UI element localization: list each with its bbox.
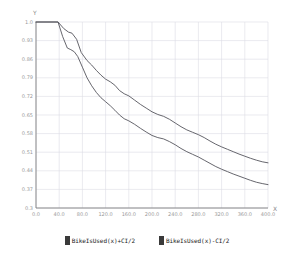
x-tick-label: 80.0 <box>77 212 88 217</box>
y-tick-label: 0.44 <box>22 168 33 173</box>
y-axis-label: Y <box>33 9 37 16</box>
x-tick-label: 320.0 <box>214 212 228 217</box>
x-tick-label: 280.0 <box>191 212 205 217</box>
y-tick-label: 0.51 <box>22 150 33 155</box>
legend-swatch-icon <box>159 236 164 245</box>
y-tick-label: 0.65 <box>22 113 33 118</box>
x-tick-label: 40.0 <box>54 212 65 217</box>
x-tick-label: 120.0 <box>98 212 112 217</box>
plot-area <box>36 22 268 208</box>
legend-label: BikeIsUsed(x)-CI/2 <box>166 237 229 244</box>
y-tick-label: 0.37 <box>22 187 33 192</box>
series-lines <box>36 22 268 208</box>
legend-label: BikeIsUsed(x)+CI/2 <box>72 237 135 244</box>
y-tick-label: 0.58 <box>22 131 33 136</box>
legend-swatch-icon <box>65 236 70 245</box>
legend-entry[interactable]: BikeIsUsed(x)-CI/2 <box>159 236 229 245</box>
series-line-1 <box>36 22 268 185</box>
y-tick-label: 0.3 <box>25 206 33 211</box>
x-tick-label: 0.0 <box>32 212 40 217</box>
y-tick-label: 0.79 <box>22 75 33 80</box>
x-tick-label: 240.0 <box>168 212 182 217</box>
x-axis-tick-labels: 0.040.080.0120.0160.0200.0240.0280.0320.… <box>0 212 294 224</box>
y-tick-label: 1.0 <box>25 20 33 25</box>
series-line-0 <box>36 22 268 163</box>
y-tick-label: 0.86 <box>22 57 33 62</box>
legend-entry[interactable]: BikeIsUsed(x)+CI/2 <box>65 236 135 245</box>
y-tick-label: 0.93 <box>22 38 33 43</box>
chart-container: Y X 1.00.930.860.790.720.650.580.510.440… <box>0 0 294 261</box>
chart-legend: BikeIsUsed(x)+CI/2BikeIsUsed(x)-CI/2 <box>0 232 294 248</box>
x-tick-label: 160.0 <box>122 212 136 217</box>
x-tick-label: 200.0 <box>145 212 159 217</box>
x-tick-label: 400.0 <box>261 212 275 217</box>
x-tick-label: 360.0 <box>238 212 252 217</box>
y-tick-label: 0.72 <box>22 94 33 99</box>
